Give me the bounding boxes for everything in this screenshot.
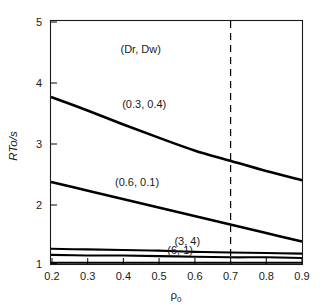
y-tick-label: 4 <box>36 77 42 89</box>
y-tick-label: 5 <box>36 16 42 28</box>
annotation-series-6-1: (6, 1) <box>167 244 193 256</box>
x-axis-label-subscript: 0 <box>177 295 182 304</box>
annotation-series-0-3-0-4: (0.3, 0.4) <box>122 98 166 110</box>
x-tick-label: 0.5 <box>151 270 166 282</box>
y-tick-label: 2 <box>36 199 42 211</box>
x-tick-label: 0.3 <box>80 270 95 282</box>
x-tick-label: 0.2 <box>44 270 59 282</box>
y-axis-label: RTo/s <box>7 131 19 161</box>
annotation-series-0-6-0-1: (0.6, 0.1) <box>115 176 159 188</box>
chart-canvas: 5 4 3 2 1 0.2 0.3 0.4 0.5 0.6 0.7 0.8 0. <box>0 0 323 307</box>
chart-figure: 5 4 3 2 1 0.2 0.3 0.4 0.5 0.6 0.7 0.8 0. <box>0 0 323 307</box>
y-tick-label: 3 <box>36 138 42 150</box>
x-tick-label: 0.6 <box>187 270 202 282</box>
y-tick-label: 1 <box>36 258 42 270</box>
annotation-legend-header: (Dr, Dw) <box>120 43 160 55</box>
x-tick-label: 0.8 <box>259 270 274 282</box>
x-tick-label: 0.7 <box>223 270 238 282</box>
x-tick-label: 0.4 <box>116 270 131 282</box>
chart-background <box>0 0 323 307</box>
x-tick-label: 0.9 <box>294 270 309 282</box>
